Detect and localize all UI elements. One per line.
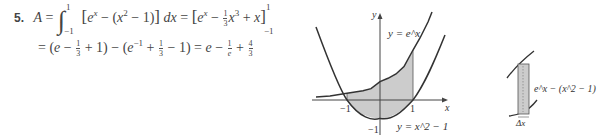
tick-x-neg1: −1 xyxy=(340,103,351,114)
strip-width-label: Δx xyxy=(515,118,525,128)
strip-height-label: e^x − (x^2 − 1) xyxy=(534,83,597,95)
y-axis-label: y xyxy=(371,9,377,20)
label-parabola: y = x^2 − 1 xyxy=(396,120,448,132)
area-graph: y x y = e^x y = x^2 − 1 −1 1 −1 e^x − (x… xyxy=(0,0,599,138)
strip-rectangle xyxy=(518,64,529,114)
label-exp-curve: y = e^x xyxy=(387,27,420,39)
tick-y-neg1: −1 xyxy=(368,124,379,135)
tick-x-pos1: 1 xyxy=(410,103,415,114)
strip-figure: e^x − (x^2 − 1) Δx xyxy=(507,51,597,128)
x-axis-label: x xyxy=(444,102,450,113)
y-axis-arrow xyxy=(378,13,383,19)
curve-exp xyxy=(316,12,432,97)
